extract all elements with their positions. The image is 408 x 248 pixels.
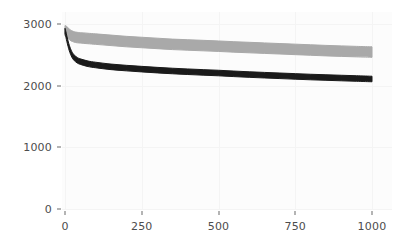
x-tick-label: 750 (284, 220, 306, 233)
x-tick-mark (141, 211, 142, 215)
x-tick-label: 250 (131, 220, 153, 233)
y-tick-mark (57, 24, 61, 25)
x-tick-mark (372, 211, 373, 215)
x-tick-label: 1000 (358, 220, 387, 233)
x-tick-label: 0 (61, 220, 68, 233)
y-tick-mark (57, 147, 61, 148)
x-tick-label: 500 (208, 220, 230, 233)
y-tick-label: 1000 (23, 141, 52, 154)
y-tick-label: 0 (45, 203, 52, 216)
y-tick-label: 3000 (23, 18, 52, 31)
series-band-upper-gray-curve (65, 26, 372, 58)
y-tick-mark (57, 209, 61, 210)
y-tick-mark (57, 85, 61, 86)
x-tick-mark (218, 211, 219, 215)
series-layer (0, 0, 408, 248)
x-tick-mark (65, 211, 66, 215)
chart-figure: 0100020003000 02505007501000 (0, 0, 408, 248)
x-tick-mark (295, 211, 296, 215)
y-tick-label: 2000 (23, 79, 52, 92)
